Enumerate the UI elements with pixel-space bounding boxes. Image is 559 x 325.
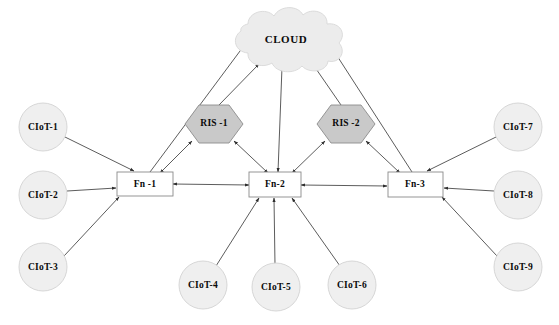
edge-ciot7-fn3: [427, 137, 496, 171]
edge-ciot9-fn3: [442, 197, 497, 256]
edge-fn1-fn2: [173, 184, 249, 185]
ciot5-label: CIoT-5: [261, 282, 291, 292]
network-diagram: CLOUD RIS -1 RIS -2 Fn -1 Fn-2 Fn-3 CIoT…: [0, 0, 559, 325]
edge-ciot8-fn3: [444, 188, 494, 191]
ciot2-label: CIoT-2: [28, 190, 58, 200]
node-ciot8[interactable]: CIoT-8: [494, 171, 542, 219]
fn1-label: Fn -1: [134, 179, 156, 189]
node-fn1[interactable]: Fn -1: [117, 172, 173, 196]
cloud-label: CLOUD: [265, 33, 308, 45]
node-ciot6[interactable]: CIoT-6: [328, 261, 376, 309]
ciot6-label: CIoT-6: [337, 280, 367, 290]
edge-ciot2-fn1: [67, 188, 116, 191]
edge-ciot6-fn2: [292, 198, 340, 266]
edge-ciot5-fn2: [274, 198, 275, 265]
ciot7-label: CIoT-7: [503, 122, 533, 132]
node-ciot5[interactable]: CIoT-5: [252, 263, 300, 311]
edge-ris1-cloud: [219, 64, 259, 105]
ciot3-label: CIoT-3: [28, 262, 58, 272]
edge-fn2-fn3: [301, 185, 387, 186]
ciot4-label: CIoT-4: [188, 280, 218, 290]
node-ciot2[interactable]: CIoT-2: [19, 171, 67, 219]
node-fn2[interactable]: Fn-2: [249, 172, 301, 197]
node-fn3[interactable]: Fn-3: [388, 172, 443, 197]
fn3-label: Fn-3: [405, 179, 425, 189]
node-ciot1[interactable]: CIoT-1: [19, 103, 67, 151]
node-ciot4[interactable]: CIoT-4: [179, 261, 227, 309]
node-ris1[interactable]: RIS -1: [185, 105, 243, 143]
edge-fn2-ris2: [292, 141, 325, 173]
edge-fn2-ris1: [234, 141, 268, 173]
node-ciot3[interactable]: CIoT-3: [19, 243, 67, 291]
edge-fn2-cloud: [278, 67, 282, 172]
ris2-label: RIS -2: [332, 118, 359, 128]
edge-ciot4-fn2: [216, 198, 259, 266]
diagram-canvas: CLOUD RIS -1 RIS -2 Fn -1 Fn-2 Fn-3 CIoT…: [0, 0, 559, 325]
ris1-label: RIS -1: [200, 118, 227, 128]
node-ris2[interactable]: RIS -2: [317, 105, 375, 143]
edge-ciot3-fn1: [64, 197, 119, 256]
node-ciot7[interactable]: CIoT-7: [494, 103, 542, 151]
node-ciot9[interactable]: CIoT-9: [494, 243, 542, 291]
node-cloud[interactable]: CLOUD: [235, 8, 342, 72]
edge-layer: [64, 47, 497, 266]
edge-ciot1-fn1: [65, 137, 134, 171]
edge-fn1-ris1: [160, 141, 192, 173]
ciot9-label: CIoT-9: [503, 262, 533, 272]
ciot1-label: CIoT-1: [28, 122, 58, 132]
ciot8-label: CIoT-8: [503, 190, 533, 200]
fn2-label: Fn-2: [265, 179, 285, 189]
